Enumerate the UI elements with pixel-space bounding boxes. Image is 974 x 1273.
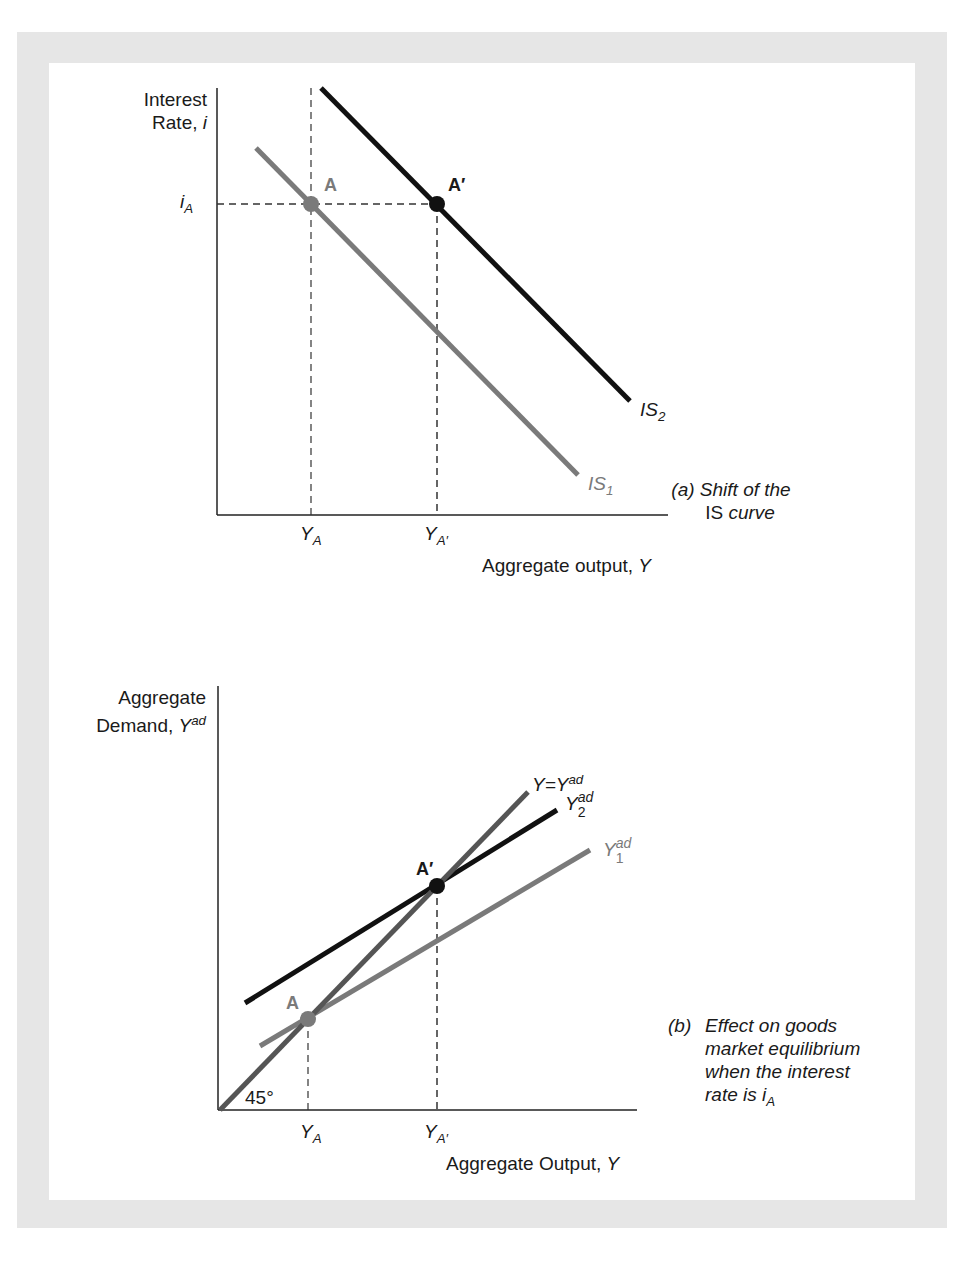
point-a-b xyxy=(300,1011,316,1027)
label-y2ad: Yad2 xyxy=(565,790,593,820)
y-axis-b-sup: ad xyxy=(191,713,206,728)
tick-ya-prime-sub: A′ xyxy=(437,533,448,548)
y-axis-var: i xyxy=(203,112,207,133)
x-axis-b-text: Aggregate Output, xyxy=(446,1153,607,1174)
tick-ya-prime: YA′ xyxy=(424,522,448,552)
tick-ya-prime-var: Y xyxy=(424,523,437,544)
panel-b-x-axis-label: Aggregate Output, Y xyxy=(446,1152,619,1175)
y-axis-label-text: Rate, xyxy=(152,112,203,133)
is2-text: IS xyxy=(640,399,658,420)
tick-ia-sub: A xyxy=(184,201,193,216)
y-axis-b-line2: Demand, Yad xyxy=(60,709,206,737)
label-point-a: A xyxy=(324,174,337,197)
caption-b-line3: when the interest xyxy=(705,1060,850,1083)
tick-ya-prime-b-var: Y xyxy=(424,1121,437,1142)
caption-b-var-sub: A xyxy=(766,1094,775,1109)
label-point-a-prime-b: A′ xyxy=(416,858,433,881)
tick-ya-b-sub: A xyxy=(313,1131,322,1146)
caption-b-line1: Effect on goods xyxy=(705,1014,837,1037)
y-axis-label-line1: Interest xyxy=(100,88,207,111)
tick-ya-prime-b: YA′ xyxy=(424,1120,448,1150)
y-axis-b-text: Demand, xyxy=(96,715,178,736)
label-is2: IS2 xyxy=(640,398,665,428)
point-a-prime xyxy=(429,196,445,212)
y2-text: Y xyxy=(565,793,578,814)
caption-b-line2: market equilibrium xyxy=(705,1037,860,1060)
label-y1ad: Yad1 xyxy=(603,836,631,866)
is1-text: IS xyxy=(588,473,606,494)
panel-a-x-axis-label: Aggregate output, Y xyxy=(482,554,651,577)
tick-ya-b-var: Y xyxy=(300,1121,313,1142)
point-a xyxy=(303,196,319,212)
tick-ya-prime-b-sub: A′ xyxy=(437,1131,448,1146)
x-axis-var: Y xyxy=(638,555,651,576)
y2-stack: ad2 xyxy=(578,790,594,820)
line45-text: Y=Y xyxy=(532,774,568,795)
y1-text: Y xyxy=(603,839,616,860)
y1-stack: ad1 xyxy=(616,836,632,866)
panel-a-graphics xyxy=(217,88,668,515)
caption-b-line4-text: rate is xyxy=(705,1084,762,1105)
caption-a-line2: IS curve xyxy=(660,501,802,524)
panel-a-caption: (a) Shift of the IS curve xyxy=(660,478,802,524)
line45-sup: ad xyxy=(568,772,583,787)
y-axis-label-line2: Rate, i xyxy=(100,111,207,134)
y2ad-line xyxy=(245,810,557,1003)
panel-a-y-axis-label: Interest Rate, i xyxy=(100,88,207,134)
caption-a-curve: curve xyxy=(728,502,774,523)
tick-ya-sub: A xyxy=(313,533,322,548)
y2-sub: 2 xyxy=(578,805,594,820)
label-45-degree: 45° xyxy=(245,1086,274,1109)
caption-b-prefix: (b) xyxy=(668,1014,691,1037)
y-axis-b-var: Y xyxy=(179,715,192,736)
is1-curve xyxy=(256,148,578,475)
y1-sub: 1 xyxy=(616,851,632,866)
x-axis-b-var: Y xyxy=(607,1153,620,1174)
panel-b-graphics xyxy=(218,686,637,1110)
is1-sub: 1 xyxy=(606,483,613,498)
line-45-degree xyxy=(220,792,528,1110)
y-axis-b-line1: Aggregate xyxy=(60,686,206,709)
x-axis-label-text: Aggregate output, xyxy=(482,555,638,576)
y2-sup: ad xyxy=(578,790,594,805)
tick-ia: iA xyxy=(180,190,193,220)
is2-curve xyxy=(321,88,630,401)
tick-ya: YA xyxy=(300,522,322,552)
caption-a-is: IS xyxy=(705,502,728,523)
panel-b-y-axis-label: Aggregate Demand, Yad xyxy=(60,686,206,737)
tick-ya-var: Y xyxy=(300,523,313,544)
label-is1: IS1 xyxy=(588,472,613,502)
tick-ya-b: YA xyxy=(300,1120,322,1150)
is2-sub: 2 xyxy=(658,409,665,424)
caption-a-line1: (a) Shift of the xyxy=(660,478,802,501)
label-point-a-b: A xyxy=(286,992,299,1015)
label-point-a-prime: A′ xyxy=(448,174,465,197)
caption-b-line4: rate is iA xyxy=(705,1083,775,1113)
y1-sup: ad xyxy=(616,836,632,851)
